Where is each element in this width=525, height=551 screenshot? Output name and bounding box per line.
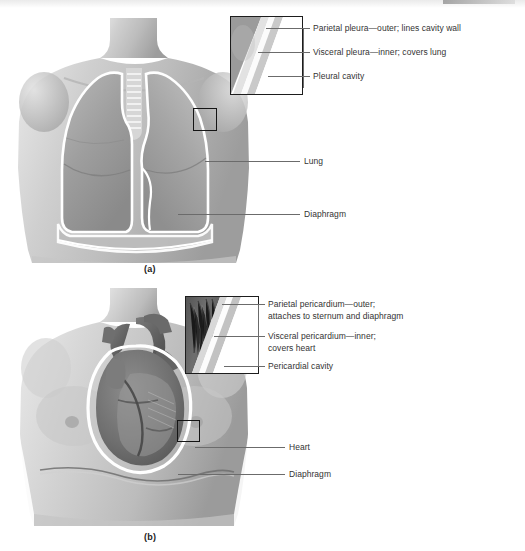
pericardium-leader-3: [224, 366, 265, 367]
pleura-marker-box: [193, 108, 217, 131]
panel-b: Parietal pericardium—outer; attaches to …: [0, 278, 525, 551]
pericardium-leader-1: [222, 304, 265, 305]
label-visceral-pleura: Visceral pleura—inner; covers lung: [313, 47, 446, 59]
panel-a: Parietal pleura—outer; lines cavity wall…: [0, 0, 525, 278]
pleura-leader-2: [258, 52, 310, 53]
label-visceral-pericardium: Visceral pericardium—inner; covers heart: [268, 331, 376, 354]
pericardium-callout-spine: [258, 304, 259, 366]
label-lung: Lung: [304, 156, 323, 168]
label-parietal-pericardium: Parietal pericardium—outer; attaches to …: [268, 299, 403, 322]
label-diaphragm-a: Diaphragm: [304, 209, 346, 221]
pericardium-inset: [185, 296, 259, 374]
diaphragm-leader-a: [178, 214, 300, 215]
caption-a: (a): [144, 264, 156, 274]
label-pericardial-cavity: Pericardial cavity: [268, 361, 333, 373]
label-parietal-pleura: Parietal pleura—outer; lines cavity wall: [313, 23, 461, 35]
heart-leader: [195, 447, 285, 448]
anatomy-figure: Parietal pleura—outer; lines cavity wall…: [0, 0, 525, 551]
pericardium-marker-box: [177, 420, 200, 442]
pleura-callout-spine: [303, 28, 304, 88]
label-pleural-cavity: Pleural cavity: [313, 71, 364, 83]
pericardium-leader-2: [214, 336, 265, 337]
caption-b: (b): [144, 532, 156, 542]
diaphragm-leader-b: [178, 474, 285, 475]
label-diaphragm-b: Diaphragm: [289, 469, 331, 481]
label-heart: Heart: [289, 442, 310, 454]
pericardium-inset-art: [186, 297, 258, 373]
pleura-leader-1: [266, 28, 310, 29]
lung-leader: [205, 161, 300, 162]
thorax-lungs-illustration: [18, 18, 250, 263]
pleura-leader-3: [268, 76, 310, 77]
